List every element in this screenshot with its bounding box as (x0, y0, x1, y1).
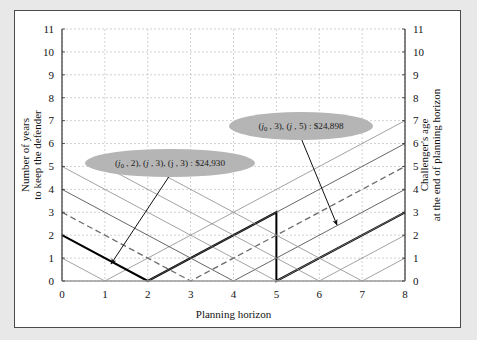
callout-lower-label: (j0 , 2), (j , 3), (j , 3) : $24,930 (115, 158, 225, 169)
y-left-tick-label-10: 10 (43, 46, 55, 58)
y-left-tick-label-2: 2 (49, 229, 55, 241)
y-left-tick-label-7: 7 (49, 114, 55, 126)
y-left-axis-title-line1: Number of years (19, 118, 31, 192)
y-left-tick-label-3: 3 (49, 206, 55, 218)
x-tick-label-5: 5 (274, 288, 280, 300)
x-axis-title: Planning horizon (196, 308, 272, 320)
x-tick-label-1: 1 (102, 288, 108, 300)
y-left-tick-label-11: 11 (43, 23, 54, 35)
y-right-axis-title-line2: at the end of planning horizon (430, 88, 442, 221)
y-left-tick-label-0: 0 (49, 275, 55, 287)
y-right-tick-label-3: 3 (413, 206, 419, 218)
x-tick-label-8: 8 (402, 288, 408, 300)
y-left-axis-title-line2: to keep the defender (31, 110, 43, 200)
y-left-tick-label-5: 5 (49, 160, 55, 172)
x-tick-label-7: 7 (359, 288, 365, 300)
callout-upper-label: (j0 , 3), (j , 5) : $24,898 (258, 121, 344, 132)
y-right-axis-title-line1: Challenger's age (418, 119, 430, 192)
x-tick-label-6: 6 (317, 288, 323, 300)
replacement-policy-chart: 0123456780123456789101101234567891011Pla… (15, 11, 462, 329)
x-tick-label-3: 3 (188, 288, 194, 300)
y-left-tick-label-4: 4 (49, 183, 55, 195)
y-right-tick-label-9: 9 (413, 69, 419, 81)
y-left-tick-label-9: 9 (49, 69, 55, 81)
y-right-tick-label-11: 11 (413, 23, 424, 35)
x-tick-label-4: 4 (231, 288, 237, 300)
y-right-tick-label-2: 2 (413, 229, 419, 241)
figure-panel: 0123456780123456789101101234567891011Pla… (14, 10, 461, 328)
y-left-tick-label-1: 1 (49, 252, 55, 264)
y-left-tick-label-6: 6 (49, 137, 55, 149)
y-right-tick-label-8: 8 (413, 92, 419, 104)
x-tick-label-2: 2 (145, 288, 151, 300)
x-tick-label-0: 0 (59, 288, 65, 300)
y-right-tick-label-1: 1 (413, 252, 419, 264)
y-left-tick-label-8: 8 (49, 92, 55, 104)
y-right-tick-label-10: 10 (413, 46, 425, 58)
y-right-tick-label-0: 0 (413, 275, 419, 287)
plot-area: 0123456780123456789101101234567891011Pla… (15, 11, 460, 327)
